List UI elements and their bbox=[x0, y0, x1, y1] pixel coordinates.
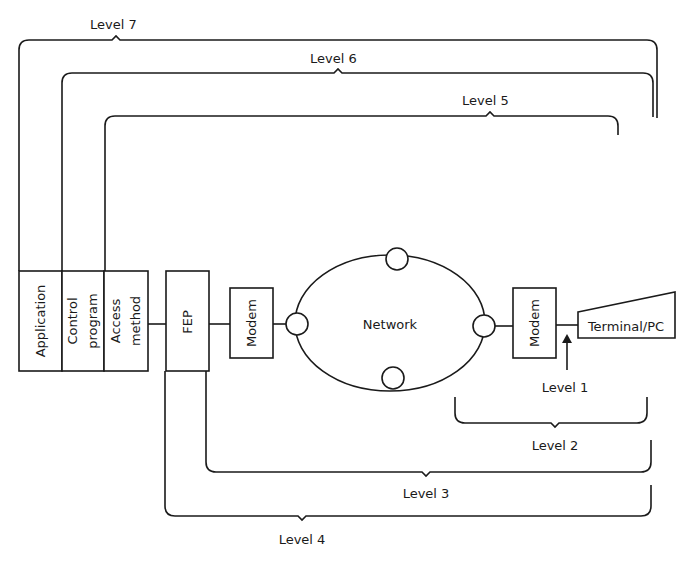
level-6-label: Level 6 bbox=[310, 51, 357, 66]
level-2-label: Level 2 bbox=[532, 438, 579, 453]
application-label: Application bbox=[33, 285, 48, 358]
arrow-up-icon bbox=[562, 334, 572, 343]
level-2-bracket: Level 2 bbox=[455, 397, 647, 453]
node-top bbox=[386, 248, 408, 270]
fep: FEP bbox=[166, 271, 209, 371]
modem-right: Modem bbox=[513, 288, 556, 358]
node-bottom bbox=[382, 367, 404, 389]
control-program-label-line2: program bbox=[85, 293, 100, 349]
access-method-label-line1: Access bbox=[108, 299, 123, 344]
level-4-bracket: Level 4 bbox=[165, 371, 651, 547]
fep-label: FEP bbox=[180, 310, 195, 334]
level-4-label: Level 4 bbox=[279, 532, 326, 547]
access-method-label-line2: method bbox=[128, 296, 143, 346]
level-5-label: Level 5 bbox=[462, 93, 509, 108]
network: Network bbox=[286, 248, 495, 391]
node-right bbox=[473, 315, 495, 337]
terminal-label: Terminal/PC bbox=[587, 319, 664, 334]
modem-right-label: Modem bbox=[527, 299, 542, 347]
node-left bbox=[286, 313, 308, 335]
osi-layer-diagram: Level 7 Level 6 Level 5 Application Cont… bbox=[0, 0, 699, 567]
terminal-pc: Terminal/PC bbox=[578, 292, 675, 338]
level-1-label: Level 1 bbox=[542, 380, 589, 395]
network-label: Network bbox=[363, 317, 418, 332]
modem-left: Modem bbox=[230, 288, 273, 358]
level-5-bracket: Level 5 bbox=[105, 93, 618, 271]
level-7-label: Level 7 bbox=[90, 17, 137, 32]
control-program-label-line1: Control bbox=[65, 298, 80, 345]
host-stack: Application Control program Access metho… bbox=[19, 271, 148, 371]
level-3-label: Level 3 bbox=[403, 486, 450, 501]
level-6-bracket: Level 6 bbox=[62, 51, 653, 271]
modem-left-label: Modem bbox=[244, 299, 259, 347]
